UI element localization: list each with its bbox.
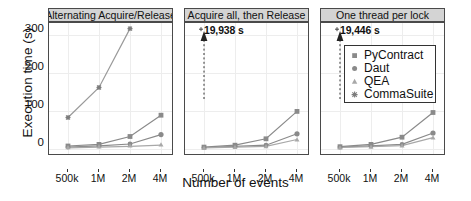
- figure-faceted-line-chart: Execution time (s) 300 200 100 0 Alterna…: [0, 0, 471, 201]
- markers-pycontract-p3: [338, 110, 436, 149]
- panel-alternating-acquire-release: Alternating Acquire/Release: [48, 8, 173, 155]
- triangle-marker-icon: [348, 74, 362, 87]
- legend-label-pycontract: PyContract: [364, 48, 423, 62]
- y-tick-label-100: 100: [14, 99, 44, 111]
- series-pycontract-p2: [204, 111, 297, 147]
- series-lines-panel-1: [49, 23, 172, 154]
- annotation-label-panel-2: 19,938 s: [204, 25, 244, 36]
- legend-item-daut[interactable]: Daut: [348, 61, 430, 74]
- panel-title-1: Alternating Acquire/Release: [48, 8, 173, 22]
- markers-pycontract-p2: [202, 109, 300, 150]
- legend-label-qea: QEA: [364, 74, 389, 88]
- panel-one-thread-per-lock: One thread per lock: [320, 8, 445, 155]
- plot-area-2: [184, 22, 309, 155]
- square-marker-icon: [348, 48, 362, 61]
- y-axis-ticks: 300 200 100 0: [14, 0, 44, 201]
- legend-item-qea[interactable]: QEA: [348, 74, 430, 87]
- annotation-label-panel-3: 19,446 s: [340, 25, 380, 36]
- legend: PyContract Daut QEA: [344, 45, 436, 103]
- legend-label-daut: Daut: [364, 61, 389, 75]
- circle-marker-icon: [348, 61, 362, 74]
- legend-item-commasuite[interactable]: CommaSuite: [348, 87, 430, 100]
- legend-label-commasuite: CommaSuite: [364, 87, 433, 101]
- plus-star-marker-icon: [348, 87, 362, 100]
- y-tick-label-300: 300: [14, 23, 44, 35]
- panel-title-3: One thread per lock: [320, 8, 445, 22]
- y-tick-label-0: 0: [14, 137, 44, 149]
- panel-title-2: Acquire all, then Release: [184, 8, 309, 22]
- legend-item-pycontract[interactable]: PyContract: [348, 48, 430, 61]
- markers-commasuite-p1: [66, 26, 133, 120]
- series-daut-p3: [340, 133, 433, 147]
- series-daut-p2: [204, 134, 297, 148]
- series-commasuite-p1: [68, 29, 130, 118]
- plot-area-1: [48, 22, 173, 155]
- x-axis-title: Number of events: [0, 175, 471, 190]
- y-tick-label-200: 200: [14, 61, 44, 73]
- plot-area-3: PyContract Daut QEA: [320, 22, 445, 155]
- series-lines-panel-2: [185, 23, 308, 154]
- panel-acquire-all-then-release: Acquire all, then Release: [184, 8, 309, 155]
- markers-pycontract-p1: [66, 113, 164, 149]
- series-pycontract-p1: [68, 115, 161, 146]
